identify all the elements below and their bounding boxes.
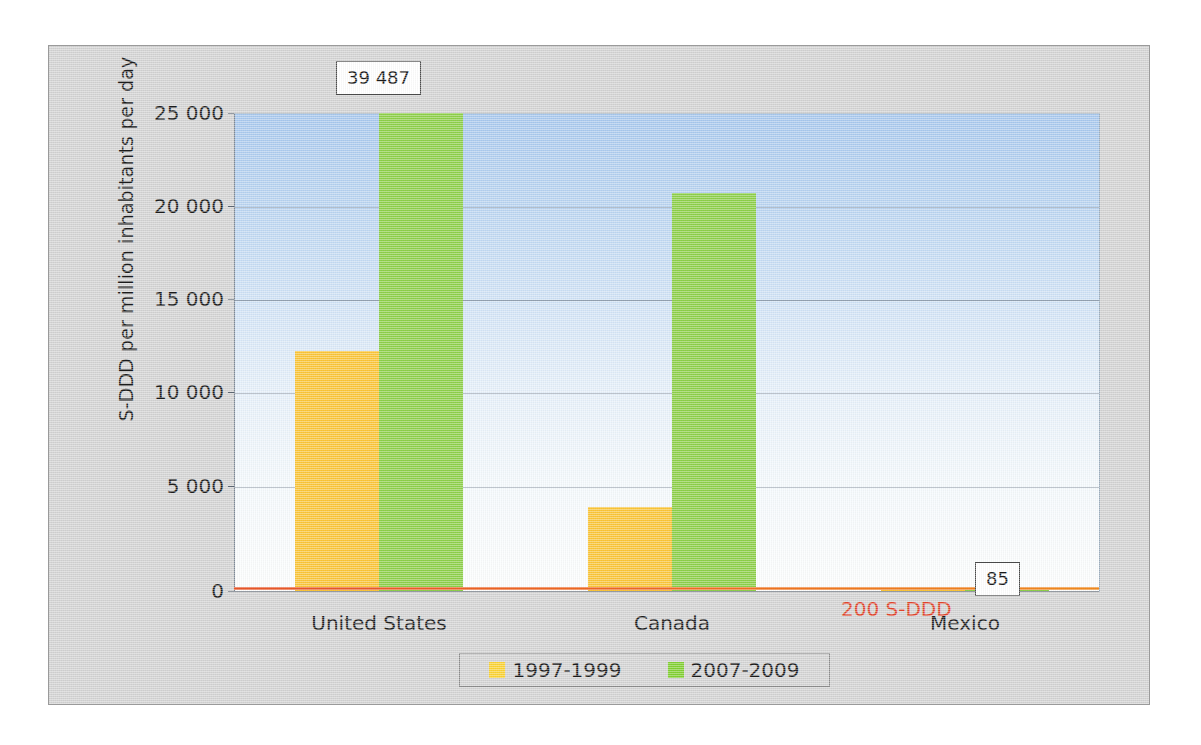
- tick-mark-0: [228, 591, 234, 592]
- tick-mark-5000: [228, 486, 234, 487]
- y-tick-15000: 15 000: [99, 287, 224, 311]
- category-label-mexico: Mexico: [930, 611, 1000, 635]
- value-box-united-states-2007-2009: 39 487: [336, 61, 421, 95]
- bar-united-states-2007-2009[interactable]: [379, 113, 463, 591]
- y-tick-0: 0: [99, 579, 224, 603]
- bar-canada-2007-2009[interactable]: [672, 193, 756, 591]
- y-tick-25000: 25 000: [99, 101, 224, 125]
- legend-item-2007-2009[interactable]: 2007-2009: [668, 658, 800, 682]
- y-tick-20000: 20 000: [99, 194, 224, 218]
- y-axis-tick-labels: 25 000 20 000 15 000 10 000 5 000 0: [94, 46, 224, 706]
- bar-canada-1997-1999[interactable]: [588, 507, 672, 591]
- chart-frame: 200 S-DDD S-DDD per million inhabitants …: [48, 45, 1150, 705]
- tick-mark-20000: [228, 206, 234, 207]
- legend-label-1997-1999: 1997-1999: [512, 658, 621, 682]
- tick-mark-10000: [228, 392, 234, 393]
- category-label-canada: Canada: [634, 611, 710, 635]
- legend-swatch-icon-1997-1999: [489, 662, 505, 678]
- bars-layer: [234, 113, 1100, 591]
- category-label-united-states: United States: [311, 611, 446, 635]
- y-tick-10000: 10 000: [99, 380, 224, 404]
- y-tick-5000: 5 000: [99, 474, 224, 498]
- legend-swatch-icon-2007-2009: [668, 662, 684, 678]
- legend-item-1997-1999[interactable]: 1997-1999: [489, 658, 621, 682]
- value-box-mexico-2007-2009: 85: [975, 562, 1020, 596]
- tick-mark-15000: [228, 299, 234, 300]
- axis-baseline: [234, 591, 1099, 592]
- bar-united-states-1997-1999[interactable]: [295, 351, 379, 591]
- tick-mark-25000: [228, 113, 234, 114]
- legend-label-2007-2009: 2007-2009: [691, 658, 800, 682]
- threshold-line: [234, 587, 1099, 590]
- chart-legend: 1997-1999 2007-2009: [459, 653, 830, 687]
